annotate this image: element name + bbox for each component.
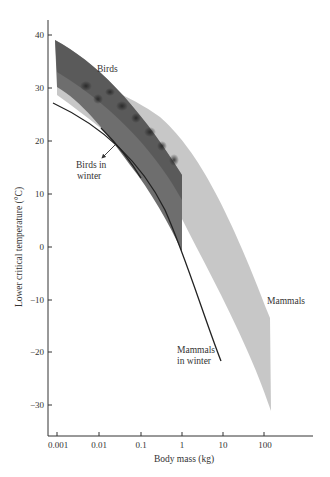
y-ticks: [48, 35, 52, 405]
x-tick-labels: 0.001 0.01 0.1 1 10 100: [48, 440, 272, 450]
y-axis-title: Lower critical temperature (°C): [14, 187, 25, 307]
y-tick-label: 0: [40, 242, 45, 252]
birds-winter-label-line2: winter: [77, 171, 102, 181]
y-tick-label: −10: [30, 295, 45, 305]
y-tick-label: 30: [35, 83, 45, 93]
y-tick-label: 40: [35, 30, 45, 40]
x-tick-label: 10: [219, 440, 229, 450]
birds-winter-label-line1: Birds in: [76, 160, 107, 170]
chart: 40 30 20 10 0 −10 −20 −30 0.001 0.01 0.1…: [0, 0, 330, 477]
mammals-winter-label-line1: Mammals: [177, 345, 215, 355]
mammals-band: [57, 75, 271, 411]
x-axis-title: Body mass (kg): [154, 454, 214, 465]
y-tick-label: −30: [30, 400, 45, 410]
birds-label: Birds: [97, 64, 118, 74]
y-tick-label: 10: [35, 189, 45, 199]
x-tick-label: 0.01: [91, 440, 107, 450]
x-tick-label: 0.001: [48, 440, 68, 450]
x-ticks: [57, 432, 264, 436]
x-tick-label: 1: [180, 440, 185, 450]
y-tick-labels: 40 30 20 10 0 −10 −20 −30: [30, 30, 45, 410]
mammals-winter-label-line2: in winter: [177, 356, 212, 366]
x-tick-label: 100: [258, 440, 272, 450]
x-tick-label: 0.1: [135, 440, 146, 450]
mammals-label: Mammals: [267, 296, 305, 306]
y-tick-label: −20: [30, 347, 45, 357]
birds-winter-arrow: [102, 145, 115, 158]
y-tick-label: 20: [35, 136, 45, 146]
